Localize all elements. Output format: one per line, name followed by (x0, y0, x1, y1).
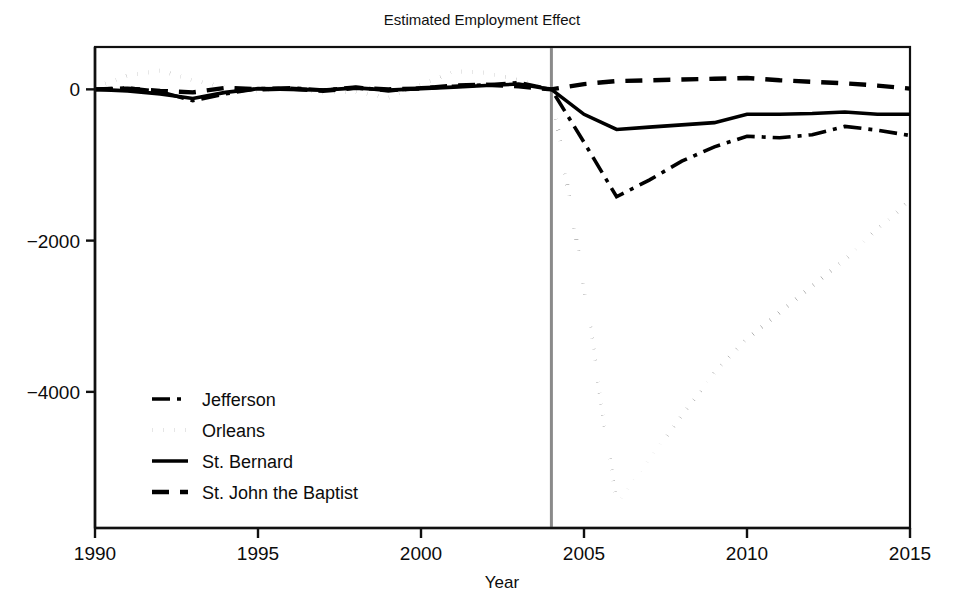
series-line-jefferson (95, 83, 910, 197)
x-tick-label: 2005 (563, 543, 605, 564)
y-tick-label: −2000 (27, 231, 80, 252)
x-tick-label: 1990 (74, 543, 116, 564)
x-tick-label: 2000 (400, 543, 442, 564)
legend-label-jefferson: Jefferson (202, 390, 276, 410)
chart-legend: JeffersonOrleansSt. BernardSt. John the … (152, 390, 358, 503)
series-line-st-john-the-baptist (95, 78, 910, 92)
x-tick-label: 1995 (237, 543, 279, 564)
x-axis-ticks: 199019952000200520102015 (74, 528, 931, 564)
legend-label-st-bernard: St. Bernard (202, 452, 293, 472)
estimated-employment-effect-chart: Estimated Employment Effect 0−2000−4000 … (0, 0, 965, 612)
y-tick-label: 0 (69, 79, 80, 100)
chart-figure: Estimated Employment Effect 0−2000−4000 … (0, 0, 965, 612)
y-axis-ticks: 0−2000−4000 (27, 79, 95, 403)
x-axis-title: Year (485, 573, 520, 592)
y-tick-label: −4000 (27, 382, 80, 403)
chart-title: Estimated Employment Effect (384, 11, 581, 28)
x-tick-label: 2010 (726, 543, 768, 564)
legend-label-st-john-the-baptist: St. John the Baptist (202, 483, 358, 503)
x-tick-label: 2015 (889, 543, 931, 564)
legend-label-orleans: Orleans (202, 421, 265, 441)
